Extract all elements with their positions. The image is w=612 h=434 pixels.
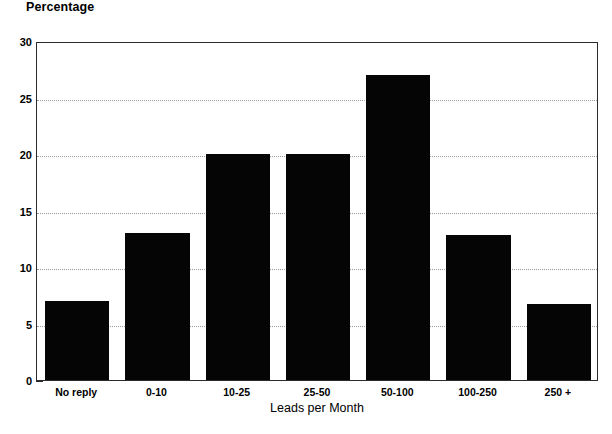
plot-area <box>36 42 598 381</box>
bar <box>446 235 510 380</box>
x-axis-tick-label: 100-250 <box>437 386 517 398</box>
x-axis-tick-label: 10-25 <box>197 386 277 398</box>
x-axis-tick-label: 25-50 <box>277 386 357 398</box>
bar <box>45 301 109 380</box>
y-axis-tick-label: 10 <box>4 262 32 274</box>
bar <box>125 233 189 380</box>
bar-chart: Percentage 051015202530 No reply0-1010-2… <box>0 0 612 434</box>
bar <box>206 154 270 380</box>
gridline <box>37 100 597 101</box>
y-axis-tick-label: 5 <box>4 319 32 331</box>
x-axis-tick-label: 0-10 <box>116 386 196 398</box>
x-axis-tick-labels: No reply0-1010-2525-5050-100100-250250 + <box>36 386 598 402</box>
bar <box>286 154 350 380</box>
x-axis-title: Leads per Month <box>36 401 598 415</box>
bar <box>366 75 430 380</box>
x-axis-tick-label: No reply <box>36 386 116 398</box>
y-axis-tick-label: 30 <box>4 36 32 48</box>
y-axis-tick-label: 15 <box>4 206 32 218</box>
bar <box>527 304 591 380</box>
x-axis-tick-label: 250 + <box>518 386 598 398</box>
y-axis-tick-label: 25 <box>4 93 32 105</box>
y-axis-tick-label: 0 <box>4 375 32 387</box>
y-axis-tick-labels: 051015202530 <box>0 42 32 381</box>
y-axis-tick-label: 20 <box>4 149 32 161</box>
y-axis-title: Percentage <box>26 0 94 14</box>
x-axis-tick-label: 50-100 <box>357 386 437 398</box>
y-axis-major-tick <box>36 381 43 382</box>
